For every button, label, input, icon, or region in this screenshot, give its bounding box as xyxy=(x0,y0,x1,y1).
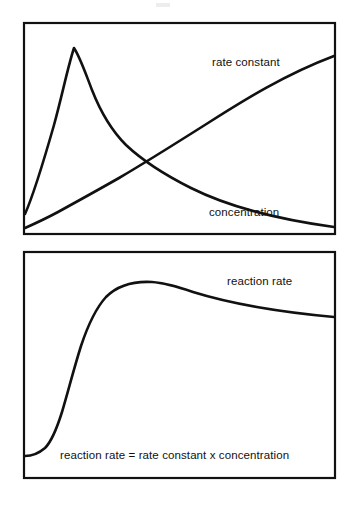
reaction-rate-curve xyxy=(25,282,334,456)
upper-panel: rate constant concentration xyxy=(24,23,335,234)
label-reaction-rate-equation: reaction rate = rate constant x concentr… xyxy=(60,449,289,461)
label-rate-constant: rate constant xyxy=(212,56,280,68)
rate-constant-curve xyxy=(25,56,334,228)
figure-container: rate constant concentration reaction rat… xyxy=(0,0,354,510)
concentration-curve xyxy=(25,48,334,227)
label-reaction-rate: reaction rate xyxy=(227,275,292,287)
figure-svg: rate constant concentration reaction rat… xyxy=(0,0,354,510)
lower-panel: reaction rate reaction rate = rate const… xyxy=(24,252,335,478)
label-concentration: concentration xyxy=(209,206,279,218)
